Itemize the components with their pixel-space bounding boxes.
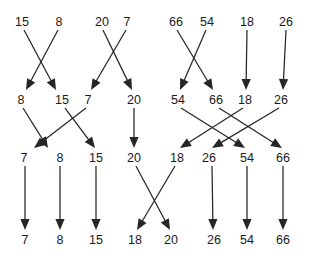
- arrow-r1-8-to-8-shaft: [30, 30, 58, 82]
- value-label-row-2-pairs-sorted-0: 8: [18, 94, 25, 107]
- value-label-row-2-pairs-sorted-4: 54: [171, 94, 185, 107]
- value-label-row-2-pairs-sorted-6: 18: [238, 94, 252, 107]
- value-label-row-3-quads-sorted-1: 8: [57, 152, 64, 165]
- arrow-r2-15-to-15-shaft: [65, 108, 90, 141]
- arrow-r2-26-to-26-shaft: [220, 108, 279, 143]
- arrow-r3-66-to-66: [278, 166, 287, 230]
- arrow-r1-7-to-7-head: [91, 78, 101, 90]
- value-label-row-4-final-sorted-3: 18: [128, 234, 142, 247]
- arrow-r3-26-to-26-shaft: [212, 166, 213, 221]
- value-label-row-1-initial-4: 66: [169, 16, 183, 29]
- arrow-r1-7-to-7-shaft: [96, 30, 126, 82]
- value-label-row-2-pairs-sorted-1: 15: [55, 94, 69, 107]
- arrow-r1-20-to-20-shaft: [103, 30, 128, 82]
- arrow-r1-15-to-15-shaft: [24, 30, 52, 82]
- sorting-network-diagram: 1582076654182681572054661826781520182654…: [0, 0, 309, 261]
- arrow-r3-15-to-15: [91, 166, 100, 230]
- value-label-row-3-quads-sorted-0: 7: [21, 152, 28, 165]
- arrow-r3-54-to-54: [242, 166, 251, 230]
- arrow-r3-15-to-15-head: [91, 219, 100, 230]
- arrow-r1-18-to-18-head: [242, 79, 251, 90]
- arrow-layer: [0, 0, 309, 261]
- value-label-row-1-initial-2: 20: [95, 16, 109, 29]
- arrow-r2-18-to-18-shaft: [188, 108, 243, 143]
- value-label-row-4-final-sorted-1: 8: [57, 234, 64, 247]
- arrow-r1-26-to-26-shaft: [283, 30, 286, 81]
- arrow-r1-8-to-8-head: [26, 78, 35, 90]
- arrow-r1-7-to-7: [91, 30, 126, 90]
- arrow-r3-8-to-8-head: [55, 219, 64, 230]
- arrow-r3-20-to-20-shaft: [136, 166, 166, 222]
- arrow-r3-26-to-26: [208, 166, 217, 230]
- arrow-r3-26-to-26-head: [208, 219, 217, 230]
- arrow-r3-18-to-18-shaft: [142, 166, 175, 222]
- value-label-row-4-final-sorted-7: 66: [276, 234, 290, 247]
- value-label-row-1-initial-5: 54: [200, 16, 214, 29]
- arrow-r2-15-to-15: [65, 108, 95, 148]
- arrow-r3-20-to-20-head: [161, 218, 170, 230]
- arrow-r1-20-to-20: [103, 30, 132, 90]
- arrow-r2-66-to-66-head: [270, 138, 282, 148]
- arrow-r1-26-to-26: [279, 30, 288, 90]
- arrow-r2-7-to-7-shaft: [41, 108, 86, 143]
- arrow-r2-20-to-20-head: [129, 137, 138, 148]
- value-label-row-3-quads-sorted-7: 66: [276, 152, 290, 165]
- value-label-row-4-final-sorted-4: 20: [164, 234, 178, 247]
- arrow-r3-8-to-8: [55, 166, 64, 230]
- arrow-r3-54-to-54-head: [242, 219, 251, 230]
- value-label-row-2-pairs-sorted-5: 66: [209, 94, 223, 107]
- value-label-row-2-pairs-sorted-3: 20: [127, 94, 141, 107]
- value-label-row-4-final-sorted-5: 26: [207, 234, 221, 247]
- value-label-row-4-final-sorted-6: 54: [240, 234, 254, 247]
- arrow-r2-8-to-8-shaft: [23, 108, 43, 140]
- value-label-row-1-initial-3: 7: [124, 16, 131, 29]
- value-label-row-4-final-sorted-0: 7: [22, 234, 29, 247]
- arrow-r2-66-to-66-shaft: [219, 108, 274, 143]
- arrow-r2-20-to-20: [129, 108, 138, 148]
- value-label-row-2-pairs-sorted-7: 26: [274, 94, 288, 107]
- arrow-r1-26-to-26-head: [279, 79, 288, 90]
- arrow-r2-8-to-8: [23, 108, 48, 148]
- value-label-row-4-final-sorted-2: 15: [89, 234, 103, 247]
- arrow-r2-15-to-15-head: [85, 136, 95, 148]
- arrow-r1-18-to-18: [242, 30, 251, 90]
- arrow-r1-66-to-66-shaft: [177, 30, 208, 82]
- arrow-r1-15-to-15-head: [47, 78, 56, 90]
- value-label-row-2-pairs-sorted-2: 7: [85, 94, 92, 107]
- arrow-r2-26-to-26: [212, 108, 279, 148]
- value-label-row-3-quads-sorted-5: 26: [202, 152, 216, 165]
- arrow-r3-7-to-7-head: [20, 219, 29, 230]
- arrow-r1-54-to-54: [180, 30, 206, 90]
- value-label-row-1-initial-6: 18: [240, 16, 254, 29]
- arrow-r2-26-to-26-head: [212, 138, 224, 148]
- value-label-row-3-quads-sorted-4: 18: [170, 152, 184, 165]
- value-label-row-3-quads-sorted-6: 54: [240, 152, 254, 165]
- arrow-r3-18-to-18: [137, 166, 175, 230]
- arrow-r1-54-to-54-shaft: [184, 30, 206, 82]
- arrow-r2-66-to-66: [219, 108, 282, 148]
- arrow-r1-66-to-66-head: [203, 78, 213, 90]
- arrow-r2-7-to-7: [34, 108, 86, 148]
- value-label-row-3-quads-sorted-3: 20: [127, 152, 141, 165]
- arrow-r3-7-to-7: [20, 166, 29, 230]
- arrow-r3-66-to-66-head: [278, 219, 287, 230]
- arrow-r1-18-to-18-shaft: [246, 30, 247, 81]
- value-label-row-3-quads-sorted-2: 15: [89, 152, 103, 165]
- arrow-r2-54-to-54-head: [233, 138, 245, 148]
- value-label-row-1-initial-0: 15: [15, 16, 29, 29]
- value-label-row-1-initial-7: 26: [279, 16, 293, 29]
- arrow-r3-18-to-18-head: [137, 218, 147, 230]
- value-label-row-1-initial-1: 8: [56, 16, 63, 29]
- arrow-r2-18-to-18-head: [180, 138, 192, 148]
